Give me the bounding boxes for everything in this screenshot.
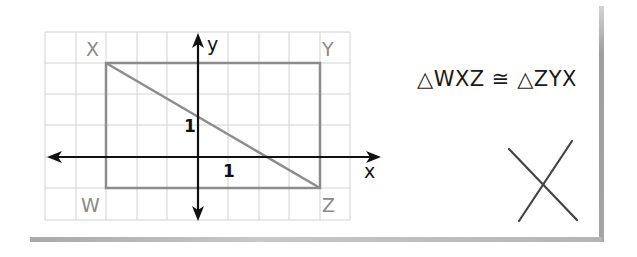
x-axis [47,151,381,163]
point-label-y: Y [321,38,334,60]
x-tick-label: 1 [223,161,235,181]
point-label-z: Z [322,194,335,216]
x-axis-label: x [364,160,375,182]
y-tick-label: 1 [184,116,196,136]
congruence-statement: △WXZ ≅ △ZYX [417,67,577,91]
point-label-w: W [81,194,100,216]
diagram-card: y x 1 1 X Y W Z △WXZ ≅ △ZYX [0,0,637,257]
y-axis-label: y [207,33,218,55]
point-label-x: X [86,38,99,60]
cross-marker-icon [509,141,577,221]
coordinate-plane: y x 1 1 X Y W Z [0,0,637,257]
